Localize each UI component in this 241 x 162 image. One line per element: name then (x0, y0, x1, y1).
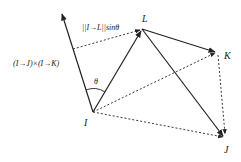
theta-arc (86, 88, 105, 92)
vector-i-l-arrow (93, 31, 141, 112)
dashed-k-j-arrow (218, 55, 225, 134)
dashed-i-j-arrow (93, 112, 223, 137)
dashed-projection-arrow (73, 30, 140, 49)
vector-l-j-arrow (142, 29, 223, 136)
cross-product-label: (I→J)×(I→K) (13, 60, 59, 68)
projection-label: ||I→L||sinθ (82, 24, 119, 32)
vector-diagram: (I→J)×(I→K) ||I→L||sinθ θ I L K J (0, 0, 241, 162)
vertex-l-label: L (142, 14, 148, 24)
dashed-i-k-arrow (93, 53, 215, 112)
vertex-i-label: I (84, 118, 87, 128)
vertex-j-label: J (224, 145, 228, 155)
diagram-graphic (0, 0, 241, 162)
vector-l-k-arrow (142, 29, 215, 52)
vertex-k-label: K (224, 51, 231, 61)
theta-label: θ (94, 78, 98, 86)
